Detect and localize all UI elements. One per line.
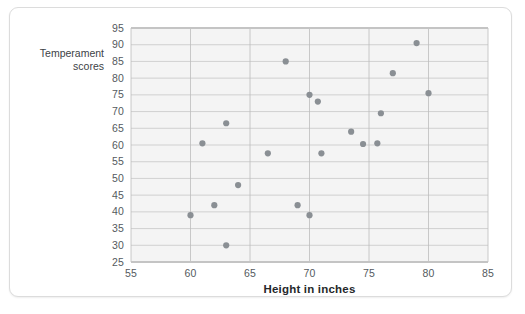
data-point <box>295 202 301 208</box>
y-tick-label: 45 <box>100 189 124 201</box>
x-tick-label: 70 <box>295 267 325 279</box>
y-tick-label: 70 <box>100 105 124 117</box>
data-point <box>187 212 193 218</box>
data-point <box>199 140 205 146</box>
data-point <box>223 120 229 126</box>
x-axis-title: Height in inches <box>131 283 488 295</box>
y-tick-label: 40 <box>100 205 124 217</box>
data-point <box>390 70 396 76</box>
data-point <box>374 140 380 146</box>
data-point <box>235 182 241 188</box>
x-tick-label: 80 <box>414 267 444 279</box>
data-point <box>306 92 312 98</box>
data-point <box>315 98 321 104</box>
y-tick-label: 30 <box>100 239 124 251</box>
data-point <box>223 242 229 248</box>
x-tick-label: 85 <box>473 267 503 279</box>
data-point <box>414 40 420 46</box>
y-tick-label: 50 <box>100 172 124 184</box>
x-tick-label: 60 <box>176 267 206 279</box>
data-point <box>211 202 217 208</box>
scatter-chart: Temperament scores 253035404550556065707… <box>0 0 525 314</box>
data-point <box>265 150 271 156</box>
data-point <box>360 141 366 147</box>
data-point <box>306 212 312 218</box>
x-tick-label: 55 <box>116 267 146 279</box>
data-point <box>378 110 384 116</box>
x-tick-label: 65 <box>235 267 265 279</box>
y-tick-label: 35 <box>100 222 124 234</box>
y-tick-label: 80 <box>100 72 124 84</box>
y-tick-label: 65 <box>100 122 124 134</box>
y-tick-label: 85 <box>100 55 124 67</box>
x-tick-label: 75 <box>354 267 384 279</box>
y-tick-label: 75 <box>100 88 124 100</box>
y-tick-label: 55 <box>100 155 124 167</box>
data-point <box>348 129 354 135</box>
y-tick-label: 95 <box>100 22 124 34</box>
data-point <box>318 150 324 156</box>
y-tick-label: 60 <box>100 139 124 151</box>
data-point <box>283 58 289 64</box>
data-point <box>425 90 431 96</box>
y-tick-label: 90 <box>100 38 124 50</box>
y-tick-label: 25 <box>100 256 124 268</box>
